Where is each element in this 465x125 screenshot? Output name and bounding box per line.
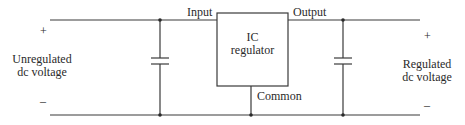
common-pin-label: Common [257,90,302,103]
junction-dot [341,113,345,117]
input-capacitor-icon [151,20,169,115]
ic-label-line2: regulator [217,44,288,57]
junction-dot [158,113,162,117]
regulated-label-line2: dc voltage [392,71,462,84]
output-capacitor-icon [334,20,352,115]
input-pin-label: Input [187,6,212,19]
output-pin-label: Output [293,6,326,19]
input-minus-sign: – [40,95,46,108]
output-plus-sign: + [424,30,431,43]
regulator-circuit-diagram: + Unregulated dc voltage – Input Output … [0,0,465,125]
output-minus-sign: – [424,99,430,112]
junction-dot [341,18,345,22]
junction-dot [158,18,162,22]
junction-dot [249,113,253,117]
unregulated-label-line2: dc voltage [2,66,82,79]
input-plus-sign: + [40,25,47,38]
